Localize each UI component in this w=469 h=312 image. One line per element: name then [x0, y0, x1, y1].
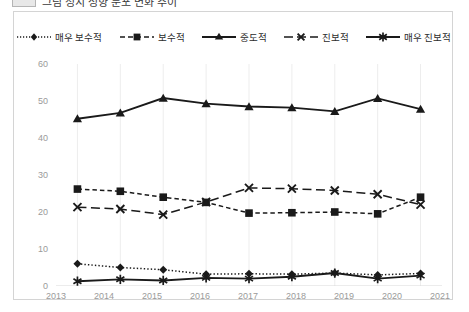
data-point: [373, 94, 382, 102]
chart-container: 매우 보수적 보수적 중도적 진보적: [13, 11, 453, 300]
legend-item-moderate[interactable]: 중도적: [202, 30, 267, 44]
data-point: [74, 185, 82, 193]
x-tick-2021: 2021: [420, 291, 460, 301]
x-tick-2017: 2017: [228, 291, 268, 301]
x-tick-2016: 2016: [180, 291, 220, 301]
data-point: [159, 266, 167, 274]
x-tick-2013: 2013: [36, 291, 76, 301]
triangle-solid-line-icon: [202, 31, 236, 43]
y-tick-40: 40: [26, 133, 48, 143]
legend-label: 매우 진보적: [404, 30, 452, 44]
data-point: [331, 208, 339, 216]
y-tick-30: 30: [26, 170, 48, 180]
y-tick-0: 0: [26, 281, 48, 291]
data-point: [417, 193, 425, 201]
chart-legend: 매우 보수적 보수적 중도적 진보적: [14, 28, 454, 46]
legend-item-conservative[interactable]: 보수적: [120, 30, 185, 44]
line-chart-svg: [56, 64, 442, 286]
gridlines: [56, 64, 442, 286]
legend-label: 중도적: [240, 30, 267, 44]
legend-swatch-icon: [12, 0, 36, 7]
page-title: 그림 정치 성향 분포 변화 추이: [42, 0, 177, 9]
x-tick-2019: 2019: [324, 291, 364, 301]
data-point: [288, 209, 296, 217]
x-tick-2020: 2020: [372, 291, 412, 301]
legend-item-progressive[interactable]: 진보적: [284, 30, 349, 44]
legend-item-very-progressive[interactable]: 매우 진보적: [366, 30, 452, 44]
data-point: [374, 210, 382, 218]
data-point: [73, 260, 81, 268]
x-tick-2018: 2018: [276, 291, 316, 301]
data-point: [117, 187, 125, 195]
data-point: [159, 193, 167, 201]
legend-label: 진보적: [322, 30, 349, 44]
x-tick-2014: 2014: [84, 291, 124, 301]
legend-label: 매우 보수적: [55, 30, 103, 44]
diamond-dotted-line-icon: [17, 31, 51, 43]
plot-area: [56, 64, 442, 286]
square-dashed-line-icon: [120, 31, 154, 43]
y-tick-60: 60: [26, 59, 48, 69]
data-point: [116, 264, 124, 272]
asterisk-solid-line-icon: [366, 31, 400, 43]
data-point: [245, 209, 253, 217]
legend-item-very-conservative[interactable]: 매우 보수적: [17, 30, 103, 44]
legend-label: 보수적: [158, 30, 185, 44]
y-tick-10: 10: [26, 244, 48, 254]
title-strip: 그림 정치 성향 분포 변화 추이: [0, 0, 469, 10]
y-tick-20: 20: [26, 207, 48, 217]
x-longdash-line-icon: [284, 31, 318, 43]
y-tick-50: 50: [26, 96, 48, 106]
x-tick-2015: 2015: [132, 291, 172, 301]
